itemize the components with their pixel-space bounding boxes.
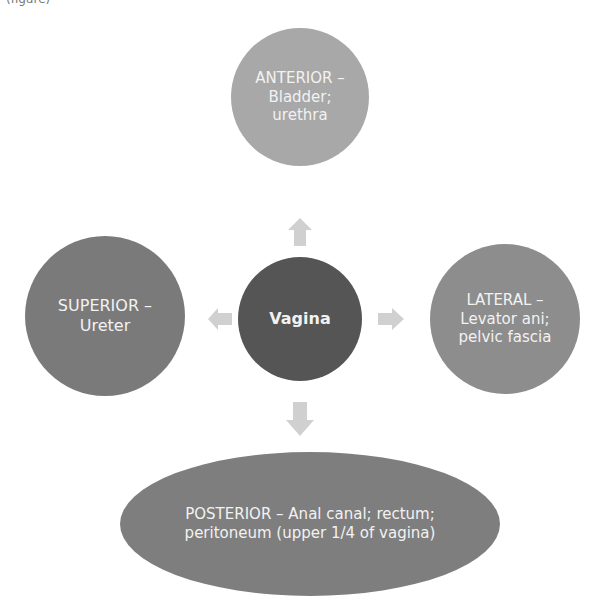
superior-node: SUPERIOR – Ureter (25, 236, 185, 396)
arrow-up-icon (288, 218, 312, 246)
lateral-node: LATERAL – Levator ani; pelvic fascia (430, 244, 580, 394)
lateral-label: LATERAL – Levator ani; pelvic fascia (459, 291, 552, 347)
superior-label: SUPERIOR – Ureter (58, 296, 152, 336)
anterior-node: ANTERIOR – Bladder; urethra (231, 28, 369, 166)
arrow-down-icon (286, 402, 314, 436)
posterior-label: POSTERIOR – Anal canal; rectum; peritone… (185, 505, 436, 543)
center-label: Vagina (269, 309, 330, 329)
arrow-right-icon (378, 308, 404, 330)
center-node: Vagina (238, 257, 362, 381)
posterior-node: POSTERIOR – Anal canal; rectum; peritone… (120, 452, 500, 596)
arrow-left-icon (208, 308, 232, 330)
figure-caption-fragment: (figure) (6, 0, 50, 6)
anterior-label: ANTERIOR – Bladder; urethra (255, 69, 344, 125)
